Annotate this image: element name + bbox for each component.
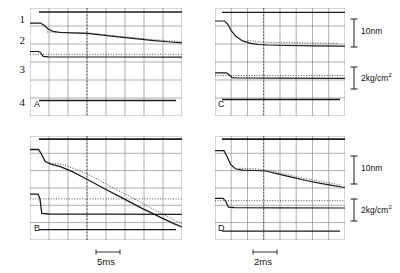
time-scale-label-left: 5ms [97,257,115,267]
time-scale-label-right: 2ms [254,257,272,267]
panel-a-plot [30,8,182,116]
pressure-scale-bar-bottom [350,198,358,222]
figure-root: 1 2 3 4 [0,0,400,273]
panel-d: D [215,136,345,240]
panel-d-plot [215,136,345,240]
y-axis-label-3: 3 [13,64,25,75]
panel-c-letter: C [218,100,225,109]
panel-a: A [30,8,182,116]
panel-d-letter: D [218,224,225,233]
panel-c-plot [215,8,345,116]
y-axis-label-1: 1 [13,14,25,25]
time-scale-bar-right [252,249,278,255]
panel-b-letter: B [34,224,40,233]
panel-a-letter: A [34,100,40,109]
pressure-scale-label-top: 2kg/cm2 [361,72,392,82]
y-axis-label-4: 4 [13,97,25,108]
pressure-scale-label-bottom: 2kg/cm2 [361,204,392,214]
time-scale-bar-left [95,249,121,255]
displacement-scale-label-bottom: 10nm [361,164,382,173]
panel-b-plot [30,136,182,240]
displacement-scale-bar-top [350,18,358,48]
pressure-scale-label-top-text: 2kg/cm [361,73,388,83]
y-axis-label-2: 2 [13,35,25,46]
pressure-scale-label-bottom-superscript: 2 [388,204,391,210]
displacement-scale-bar-bottom [350,155,358,185]
pressure-scale-label-bottom-text: 2kg/cm [361,205,388,215]
pressure-scale-bar-top [350,66,358,90]
panel-b: B [30,136,182,240]
pressure-scale-label-top-superscript: 2 [388,72,391,78]
displacement-scale-label-top: 10nm [361,27,382,36]
panel-c: C [215,8,345,116]
